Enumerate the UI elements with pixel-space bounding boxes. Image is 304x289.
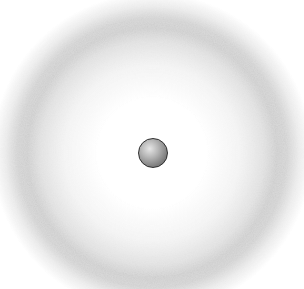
orbital-diagram [0, 0, 304, 289]
nucleus-sphere [138, 138, 168, 168]
